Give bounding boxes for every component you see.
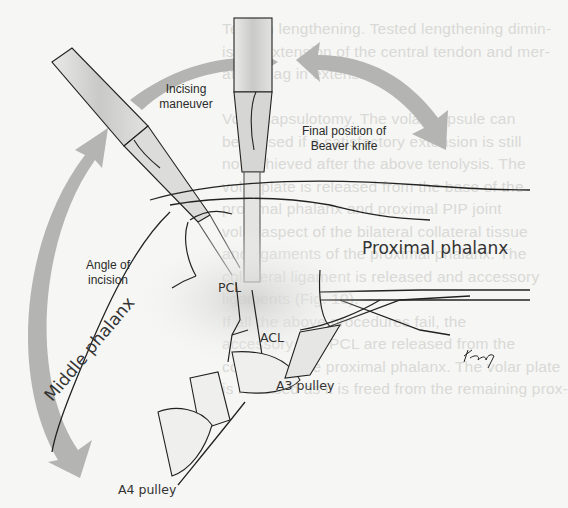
signature-mark [464, 350, 494, 368]
label-line: Angle of [68, 258, 148, 273]
label-proximal-phalanx: Proximal phalanx [362, 238, 508, 258]
label-line: Beaver knife [284, 139, 404, 154]
label-line: Final position of [284, 124, 404, 139]
label-angle-of-incision: Angle of incision [68, 258, 148, 288]
label-incising-maneuver: Incising maneuver [151, 82, 221, 112]
label-acl: ACL [260, 330, 284, 345]
label-final-position: Final position of Beaver knife [284, 124, 404, 154]
label-a3-pulley: A3 pulley [276, 378, 334, 393]
label-a4-pulley: A4 pulley [118, 482, 176, 497]
angle-of-incision-arrow [28, 128, 108, 478]
joint-shading [130, 230, 370, 370]
label-pcl: PCL [218, 280, 241, 295]
label-line: maneuver [151, 97, 221, 112]
label-line: Incising [151, 82, 221, 97]
label-line: incision [68, 273, 148, 288]
